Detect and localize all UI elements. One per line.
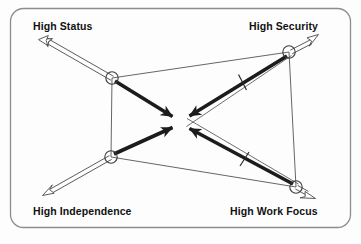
- diagram-canvas: High Status High Security High Independe…: [0, 0, 361, 244]
- node-circle-high-security[interactable]: [283, 46, 295, 58]
- node-circle-high-work-focus[interactable]: [290, 181, 302, 193]
- diagram-frame: [11, 9, 351, 228]
- node-label-high-security: High Security: [249, 20, 318, 32]
- node-circle-high-independence[interactable]: [105, 151, 117, 163]
- node-circle-high-status[interactable]: [106, 72, 118, 84]
- node-label-high-status: High Status: [33, 20, 92, 32]
- node-label-high-independence: High Independence: [33, 205, 132, 217]
- node-label-high-work-focus: High Work Focus: [230, 205, 318, 217]
